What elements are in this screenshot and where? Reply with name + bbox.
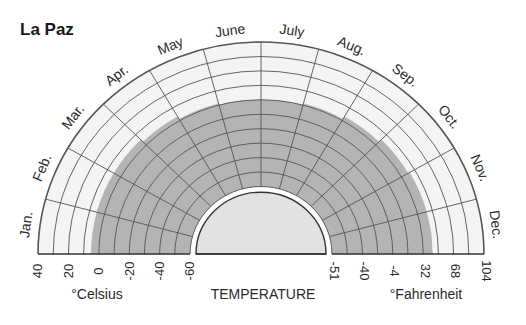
month-label-6: June [214, 20, 246, 40]
celsius-tick: 20 [61, 264, 76, 278]
fahrenheit-tick: 104 [479, 260, 494, 282]
fahrenheit-axis-label: °Fahrenheit [390, 286, 463, 302]
celsius-tick: 0 [91, 267, 106, 274]
celsius-tick: -40 [152, 262, 167, 281]
celsius-axis-label: °Celsius [71, 286, 123, 302]
month-label-7: July [279, 21, 306, 40]
celsius-tick: -60 [182, 262, 197, 281]
fahrenheit-tick: 32 [418, 264, 433, 278]
month-label-1: Jan. [16, 210, 35, 238]
month-label-2: Feb. [29, 152, 55, 184]
temperature-axis-label: TEMPERATURE [211, 286, 316, 302]
polar-temperature-chart: Jan.Feb.Mar.Apr.MayJuneJulyAug.Sep.Oct.N… [0, 0, 526, 325]
celsius-tick: -20 [122, 262, 137, 281]
fahrenheit-tick: 68 [448, 264, 463, 278]
month-label-11: Nov. [468, 152, 493, 184]
month-label-12: Dec. [486, 209, 506, 240]
fahrenheit-tick: -4 [387, 265, 402, 277]
celsius-tick: 40 [30, 264, 45, 278]
fahrenheit-tick: -40 [357, 262, 372, 281]
month-label-5: May [155, 33, 186, 58]
fahrenheit-tick: -51 [327, 262, 342, 281]
month-label-8: Aug. [335, 33, 368, 59]
